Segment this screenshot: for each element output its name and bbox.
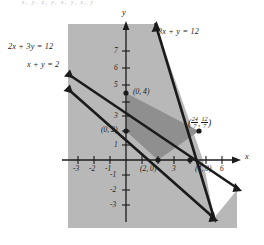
label-line-2x-3y-12: 2x + 3y = 12 <box>8 42 53 51</box>
point-2-0-dot <box>155 157 160 162</box>
y-axis-label: y <box>122 8 126 17</box>
y-tick-label--1: -1 <box>110 170 116 179</box>
y-tick-label-7: 7 <box>114 46 118 55</box>
x-axis-label: x <box>245 152 249 161</box>
y-tick-label-5: 5 <box>114 80 118 89</box>
y-tick-label-6: 6 <box>114 63 118 72</box>
y-tick-label-3: 3 <box>114 111 118 120</box>
label-point-0-2: (0, 2) <box>101 125 117 134</box>
y-tick-label-1: 1 <box>114 140 118 149</box>
x-tick-label-6: 6 <box>220 164 224 173</box>
x-tick-label--2: -2 <box>89 164 95 173</box>
label-line-3x-y-12: 3x + y = 12 <box>158 27 199 36</box>
label-point-24-7-12-7: (247, 127) <box>188 116 211 130</box>
graph-svg <box>0 0 264 245</box>
x-tick-label--3: -3 <box>73 164 79 173</box>
y-tick-label--3: -3 <box>110 200 116 209</box>
point-0-4-dot <box>123 90 128 95</box>
label-point-4-0: (4, 0) <box>195 164 211 173</box>
x-tick-label-3: 3 <box>172 164 176 173</box>
label-point-2-0: (2, 0) <box>140 164 156 173</box>
paren-close: ) <box>208 118 211 128</box>
label-line-x-y-2: x + y = 2 <box>27 60 59 69</box>
point-0-2-dot <box>123 128 128 133</box>
point-4-0-dot <box>187 157 192 162</box>
y-tick-label--2: -2 <box>110 185 116 194</box>
label-point-0-4: (0, 4) <box>133 87 149 96</box>
linear-programming-graph: x, y, z, y, x, y, z, y <box>0 0 264 245</box>
